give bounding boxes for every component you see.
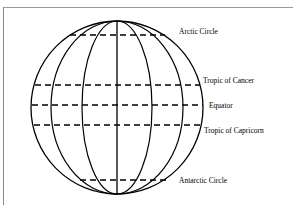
label-arctic-circle: Arctic Circle [179,27,219,36]
globe-svg: Arctic Circle Tropic of Cancer Equator T… [0,0,293,205]
label-equator: Equator [209,101,233,110]
frame-left-border [3,7,4,205]
frame-top-border [3,7,293,8]
label-tropic-of-cancer: Tropic of Cancer [203,76,254,85]
label-antarctic-circle: Antarctic Circle [179,176,228,185]
label-tropic-of-capricorn: Tropic of Capricorn [204,126,264,135]
globe-diagram: Arctic Circle Tropic of Cancer Equator T… [0,0,293,205]
